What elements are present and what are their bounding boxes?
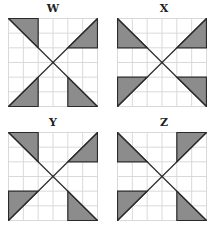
grid-figure xyxy=(8,18,98,107)
panel-label: Z xyxy=(111,116,212,130)
grid-figure xyxy=(117,132,207,221)
grid-figure xyxy=(8,132,98,221)
panel-label: X xyxy=(111,2,212,16)
panel-label: Y xyxy=(0,116,106,130)
panel-w: W xyxy=(0,0,106,115)
grid-figure xyxy=(117,18,207,107)
panel-y: Y xyxy=(0,114,106,229)
panel-x: X xyxy=(106,0,212,115)
panel-label: W xyxy=(0,2,106,16)
panel-z: Z xyxy=(106,114,212,229)
